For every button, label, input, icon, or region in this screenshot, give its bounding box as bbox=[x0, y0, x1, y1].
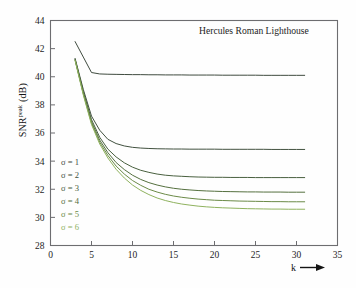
y-tick-label: 30 bbox=[35, 213, 45, 223]
y-axis-label-text: SNR bbox=[17, 117, 28, 137]
chart-figure: 05101520253035283032343638404244 Hercule… bbox=[0, 0, 356, 288]
y-tick-label: 34 bbox=[35, 157, 45, 167]
axes-group bbox=[51, 21, 338, 246]
x-tick-label: 10 bbox=[128, 250, 138, 260]
y-tick-label: 36 bbox=[35, 128, 45, 138]
plot-frame bbox=[51, 21, 338, 246]
x-tick-label: 20 bbox=[210, 250, 220, 260]
series-line-2 bbox=[75, 58, 305, 149]
legend-item-2: σ = 2 bbox=[61, 169, 79, 182]
chart-canvas: 05101520253035283032343638404244 bbox=[0, 0, 356, 288]
y-axis-label-unit: (dB) bbox=[17, 83, 28, 102]
legend-item-4: σ = 4 bbox=[61, 195, 79, 208]
y-tick-label: 40 bbox=[35, 72, 45, 82]
y-tick-label: 42 bbox=[35, 44, 45, 54]
legend-item-1: σ = 1 bbox=[61, 156, 79, 169]
chart-title: Hercules Roman Lighthouse bbox=[199, 25, 309, 36]
x-tick-label: 15 bbox=[169, 250, 179, 260]
y-tick-label: 38 bbox=[35, 100, 45, 110]
series-line-6 bbox=[75, 61, 305, 210]
x-tick-label: 25 bbox=[251, 250, 261, 260]
legend: σ = 1σ = 2σ = 3σ = 4σ = 5σ = 6 bbox=[61, 156, 79, 235]
x-tick-label: 5 bbox=[89, 250, 94, 260]
y-tick-label: 32 bbox=[35, 185, 45, 195]
y-axis-label-superscript: peak bbox=[16, 105, 23, 117]
curves-group bbox=[75, 42, 305, 210]
y-tick-label: 28 bbox=[35, 241, 45, 251]
legend-item-5: σ = 5 bbox=[61, 208, 79, 221]
series-line-1 bbox=[75, 42, 305, 76]
x-tick-label: 35 bbox=[333, 250, 343, 260]
x-tick-label: 30 bbox=[292, 250, 302, 260]
x-axis-arrow-icon bbox=[300, 263, 326, 272]
x-axis-label-text: k bbox=[291, 262, 296, 273]
x-tick-label: 0 bbox=[48, 250, 53, 260]
series-line-4 bbox=[75, 60, 305, 192]
y-axis-label: SNRpeak(dB) bbox=[16, 62, 28, 158]
y-tick-label: 44 bbox=[35, 16, 45, 26]
legend-item-6: σ = 6 bbox=[61, 221, 79, 234]
series-line-5 bbox=[75, 60, 305, 202]
x-axis-label: k bbox=[291, 262, 326, 273]
legend-item-3: σ = 3 bbox=[61, 182, 79, 195]
